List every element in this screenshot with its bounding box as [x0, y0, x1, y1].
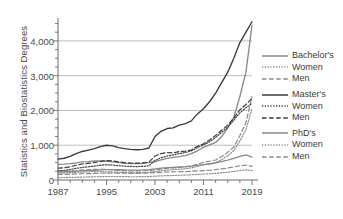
legend-item[interactable]: Bachelor's — [262, 50, 343, 62]
legend-item[interactable]: Men — [262, 151, 343, 163]
legend-label: Master's — [292, 89, 326, 100]
series-line — [58, 22, 252, 159]
x-tick-label: 2011 — [193, 186, 213, 197]
legend-line-swatch — [262, 63, 288, 71]
x-tick-label: 2019 — [241, 186, 262, 197]
legend-line-swatch — [262, 102, 288, 110]
x-tick-label: 1995 — [96, 186, 117, 197]
legend-item[interactable]: PhD's — [262, 128, 343, 140]
legend-line-swatch — [262, 91, 288, 99]
legend-item[interactable]: Women — [262, 100, 343, 112]
legend-item[interactable]: Men — [262, 73, 343, 85]
legend-item[interactable]: Women — [262, 62, 343, 74]
legend-item[interactable]: Women — [262, 139, 343, 151]
legend-line-swatch — [262, 129, 288, 137]
legend-label: Women — [292, 139, 323, 150]
x-tick-label: 1987 — [47, 186, 68, 197]
legend-item[interactable]: Men — [262, 112, 343, 124]
x-tick-label: 2003 — [144, 186, 165, 197]
legend-label: Men — [292, 151, 310, 162]
legend-line-swatch — [262, 141, 288, 149]
legend-label: Men — [292, 73, 310, 84]
legend-label: Bachelor's — [292, 50, 334, 61]
series-line — [58, 25, 252, 164]
chart-figure: Statistics and Biostatistics Degrees 01,… — [0, 0, 343, 219]
legend-item[interactable]: Master's — [262, 89, 343, 101]
legend-label: Women — [292, 62, 323, 73]
legend-line-swatch — [262, 52, 288, 60]
legend-label: Men — [292, 112, 310, 123]
legend-line-swatch — [262, 114, 288, 122]
legend-label: PhD's — [292, 128, 316, 139]
series-line — [58, 98, 252, 168]
legend-label: Women — [292, 101, 323, 112]
chart-legend: Bachelor'sWomenMenMaster'sWomenMenPhD'sW… — [262, 50, 343, 162]
legend-line-swatch — [262, 75, 288, 83]
legend-line-swatch — [262, 153, 288, 161]
